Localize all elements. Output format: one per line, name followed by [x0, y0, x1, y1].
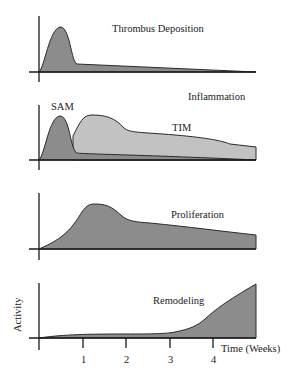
x-axis-label: Time (Weeks)	[221, 343, 281, 355]
x-tick-label-3: 3	[168, 354, 173, 365]
x-tick-label-4: 4	[211, 354, 217, 365]
x-tick-label-2: 2	[124, 354, 129, 365]
panel-proliferation: Proliferation	[29, 193, 256, 260]
tim-label: TIM	[172, 122, 192, 133]
panel-label: Proliferation	[171, 209, 225, 220]
panel-inflammation: Inflammation SAM TIM	[29, 91, 256, 170]
panel-label: Thrombus Deposition	[112, 23, 205, 34]
diagram-canvas: Thrombus Deposition Inflammation SAM TIM…	[0, 0, 290, 379]
panel-label: Remodeling	[153, 295, 205, 306]
y-axis-label: Activity	[12, 297, 23, 332]
sam-label: SAM	[51, 101, 74, 112]
remodeling-area	[39, 284, 256, 338]
panel-thrombus: Thrombus Deposition	[29, 16, 256, 82]
panel-label: Inflammation	[188, 91, 246, 102]
panel-remodeling: Remodeling 1 2 3 4 Time (Weeks) Activity	[12, 283, 281, 365]
tim-area	[73, 115, 256, 160]
x-tick-label-1: 1	[81, 354, 86, 365]
